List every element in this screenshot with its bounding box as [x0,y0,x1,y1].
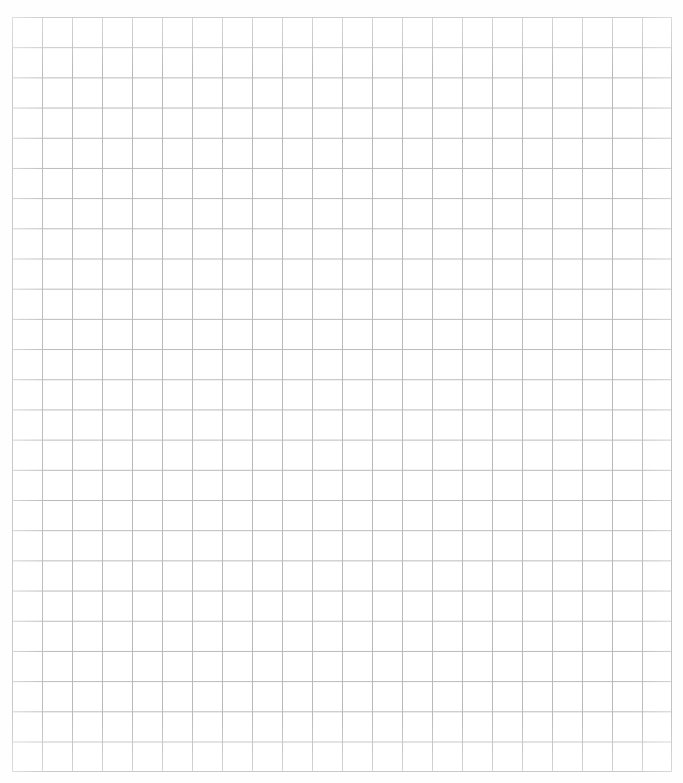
graph-paper-page [0,0,683,783]
graph-paper-grid [12,17,672,772]
